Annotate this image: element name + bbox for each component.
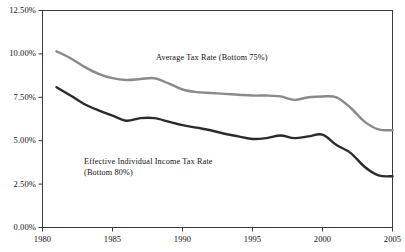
- annotation-line: (Bottom 80%): [84, 167, 213, 178]
- y-tick-label: 7.50%: [0, 92, 36, 102]
- annotation-line: Average Tax Rate (Bottom 75%): [156, 52, 268, 63]
- y-tick-label: 0.00%: [0, 222, 36, 232]
- x-tick-label: 1990: [163, 234, 203, 244]
- x-tick-label: 2000: [303, 234, 343, 244]
- y-tick-label: 2.50%: [0, 179, 36, 189]
- tax-rate-line-chart: 0.00%2.50%5.00%7.50%10.00%12.50% 1980198…: [0, 0, 405, 252]
- y-tick-label: 5.00%: [0, 135, 36, 145]
- x-tick-label: 2005: [373, 234, 405, 244]
- effective-income-tax-rate-label: Effective Individual Income Tax Rate(Bot…: [84, 156, 213, 178]
- plot-frame: [43, 11, 393, 228]
- annotation-line: Effective Individual Income Tax Rate: [84, 156, 213, 167]
- average-tax-rate-label: Average Tax Rate (Bottom 75%): [156, 52, 268, 63]
- chart-canvas: [0, 0, 405, 252]
- x-axis-ticks: [43, 228, 393, 232]
- y-tick-label: 12.50%: [0, 5, 36, 15]
- x-tick-label: 1985: [93, 234, 133, 244]
- x-tick-label: 1995: [233, 234, 273, 244]
- y-tick-label: 10.00%: [0, 48, 36, 58]
- x-tick-label: 1980: [23, 234, 63, 244]
- plot-border: [43, 11, 393, 228]
- y-axis-ticks: [39, 11, 43, 228]
